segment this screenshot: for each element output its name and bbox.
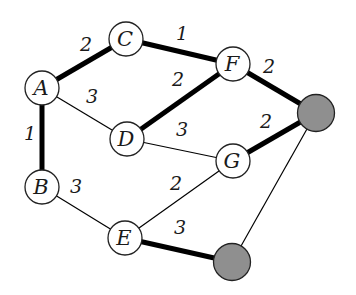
node-label: C (117, 27, 133, 51)
shaded-node-circle (214, 244, 251, 281)
node-label: A (31, 76, 48, 100)
node-d: D (110, 122, 144, 156)
node-label: G (224, 149, 241, 173)
node-e: E (108, 221, 142, 255)
node-label: E (115, 226, 131, 250)
node-a: A (25, 71, 59, 105)
edge-weight-b-e: 3 (70, 175, 82, 197)
edge-weight-f-s1: 2 (262, 55, 275, 77)
edge-weight-e-g: 2 (169, 172, 182, 194)
weighted-graph: 21322132323 ABCDEFG (0, 0, 356, 295)
shaded-node-circle (298, 95, 335, 132)
node-g: G (216, 144, 250, 178)
edge-weight-c-f: 1 (176, 22, 188, 44)
nodes-layer: ABCDEFG (25, 22, 335, 281)
edge-weight-e-s2: 3 (174, 216, 186, 238)
node-f: F (216, 47, 250, 81)
edge-weight-d-f: 2 (171, 68, 184, 90)
edge-weight-d-g: 3 (176, 118, 188, 140)
edge-weight-a-c: 2 (79, 33, 92, 55)
shaded-node (298, 95, 335, 132)
node-c: C (109, 22, 143, 56)
edge-weight-a-b: 1 (24, 122, 36, 144)
node-label: F (224, 52, 241, 76)
edge-weight-g-s1: 2 (259, 110, 272, 132)
node-label: D (117, 127, 135, 151)
shaded-node (214, 244, 251, 281)
node-b: B (25, 170, 59, 204)
edge-weight-a-d: 3 (86, 85, 98, 107)
node-label: B (32, 175, 48, 199)
